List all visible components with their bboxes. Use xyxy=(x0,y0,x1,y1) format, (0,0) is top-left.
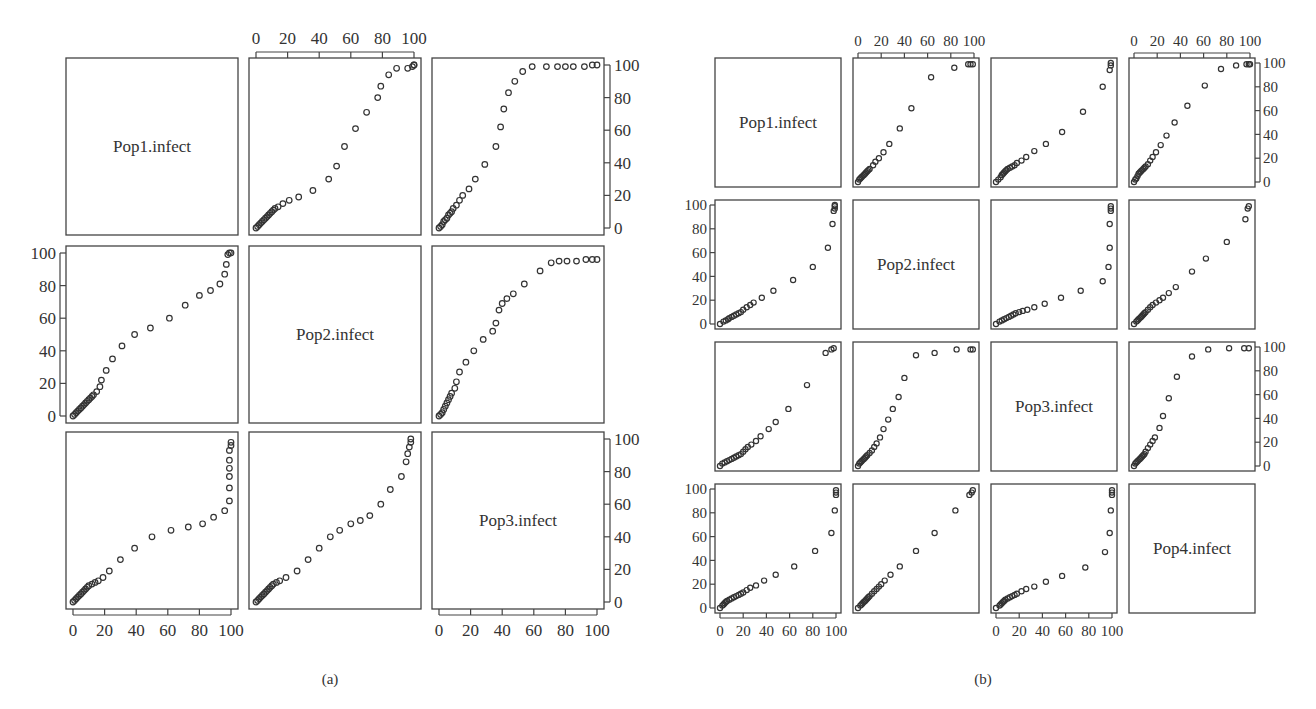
tick-label: 0 xyxy=(48,407,57,426)
tick-label: 60 xyxy=(39,309,56,328)
tick-label: 40 xyxy=(311,29,328,48)
tick-label: 100 xyxy=(1263,339,1286,355)
tick-label: 0 xyxy=(614,593,623,612)
tick-label: 20 xyxy=(614,560,631,579)
variable-label: Pop3.infect xyxy=(479,511,557,530)
tick-label: 40 xyxy=(614,528,631,547)
tick-label: 100 xyxy=(963,33,986,49)
tick-label: 0 xyxy=(700,600,708,616)
tick-label: 80 xyxy=(692,221,707,237)
tick-label: 60 xyxy=(1196,33,1211,49)
tick-label: 100 xyxy=(825,623,848,639)
tick-label: 0 xyxy=(435,621,444,640)
variable-label: Pop2.infect xyxy=(877,255,955,274)
variable-label: Pop1.infect xyxy=(113,137,191,156)
tick-label: 100 xyxy=(1263,55,1286,71)
tick-label: 0 xyxy=(252,29,261,48)
tick-label: 100 xyxy=(685,197,708,213)
tick-label: 100 xyxy=(1239,33,1262,49)
tick-label: 80 xyxy=(191,621,208,640)
scatter-panel xyxy=(432,246,604,423)
caption-b: (b) xyxy=(974,671,992,688)
tick-label: 0 xyxy=(992,623,1000,639)
tick-label: 80 xyxy=(1081,623,1096,639)
tick-label: 60 xyxy=(1263,103,1278,119)
tick-label: 20 xyxy=(692,292,707,308)
tick-label: 60 xyxy=(692,529,707,545)
tick-label: 40 xyxy=(692,553,707,569)
tick-label: 100 xyxy=(218,621,244,640)
variable-label: Pop2.infect xyxy=(296,325,374,344)
tick-label: 20 xyxy=(39,374,56,393)
tick-label: 20 xyxy=(1012,623,1027,639)
tick-label: 60 xyxy=(159,621,176,640)
tick-label: 40 xyxy=(759,623,774,639)
tick-label: 80 xyxy=(557,621,574,640)
scatter-panel xyxy=(715,200,841,329)
tick-label: 60 xyxy=(692,245,707,261)
variable-label: Pop1.infect xyxy=(739,113,817,132)
tick-label: 40 xyxy=(1263,411,1278,427)
tick-label: 0 xyxy=(1263,174,1271,190)
tick-label: 80 xyxy=(614,89,631,108)
tick-label: 60 xyxy=(342,29,359,48)
tick-label: 20 xyxy=(736,623,751,639)
tick-label: 60 xyxy=(525,621,542,640)
tick-label: 0 xyxy=(1130,33,1138,49)
scatter-panel xyxy=(1129,200,1255,329)
tick-label: 20 xyxy=(279,29,296,48)
tick-label: 0 xyxy=(854,33,862,49)
tick-label: 60 xyxy=(614,495,631,514)
tick-label: 100 xyxy=(614,56,640,75)
tick-label: 0 xyxy=(700,316,708,332)
caption-a: (a) xyxy=(322,671,339,688)
tick-label: 0 xyxy=(69,621,78,640)
tick-label: 40 xyxy=(494,621,511,640)
tick-label: 60 xyxy=(614,121,631,140)
tick-label: 100 xyxy=(685,481,708,497)
tick-label: 100 xyxy=(1101,623,1124,639)
tick-label: 60 xyxy=(920,33,935,49)
tick-label: 60 xyxy=(1058,623,1073,639)
scatter-panel xyxy=(715,342,841,471)
tick-label: 20 xyxy=(1263,434,1278,450)
tick-label: 80 xyxy=(39,277,56,296)
tick-label: 80 xyxy=(943,33,958,49)
variable-label: Pop4.infect xyxy=(1153,539,1231,558)
scatter-panel xyxy=(249,58,421,235)
tick-label: 80 xyxy=(1219,33,1234,49)
tick-label: 40 xyxy=(1035,623,1050,639)
scatter-panel xyxy=(715,484,841,613)
scatter-panel xyxy=(991,200,1117,329)
tick-label: 40 xyxy=(1173,33,1188,49)
tick-label: 40 xyxy=(614,154,631,173)
tick-label: 100 xyxy=(401,29,427,48)
tick-label: 80 xyxy=(1263,79,1278,95)
tick-label: 40 xyxy=(128,621,145,640)
tick-label: 80 xyxy=(374,29,391,48)
tick-label: 60 xyxy=(1263,387,1278,403)
tick-label: 20 xyxy=(462,621,479,640)
tick-label: 100 xyxy=(31,244,57,263)
tick-label: 0 xyxy=(614,219,623,238)
tick-label: 20 xyxy=(614,186,631,205)
scatterplot-matrix-b: Pop1.infectPop2.infectPop3.infectPop4.in… xyxy=(685,33,1286,639)
tick-label: 100 xyxy=(584,621,610,640)
scatter-panel xyxy=(432,58,604,235)
tick-label: 40 xyxy=(39,342,56,361)
tick-label: 20 xyxy=(692,576,707,592)
scatterplot-matrix-a: Pop1.infectPop2.infectPop3.infect0204060… xyxy=(31,29,640,640)
variable-label: Pop3.infect xyxy=(1015,397,1093,416)
tick-label: 100 xyxy=(614,430,640,449)
scatterplot-matrix-figure: Pop1.infectPop2.infectPop3.infect0204060… xyxy=(0,0,1316,709)
tick-label: 80 xyxy=(614,463,631,482)
tick-label: 80 xyxy=(1263,363,1278,379)
tick-label: 20 xyxy=(96,621,113,640)
tick-label: 80 xyxy=(692,505,707,521)
scatter-panel xyxy=(249,432,421,609)
tick-label: 20 xyxy=(1150,33,1165,49)
tick-label: 20 xyxy=(1263,150,1278,166)
tick-label: 20 xyxy=(874,33,889,49)
tick-label: 0 xyxy=(716,623,724,639)
scatter-panel xyxy=(991,484,1117,613)
